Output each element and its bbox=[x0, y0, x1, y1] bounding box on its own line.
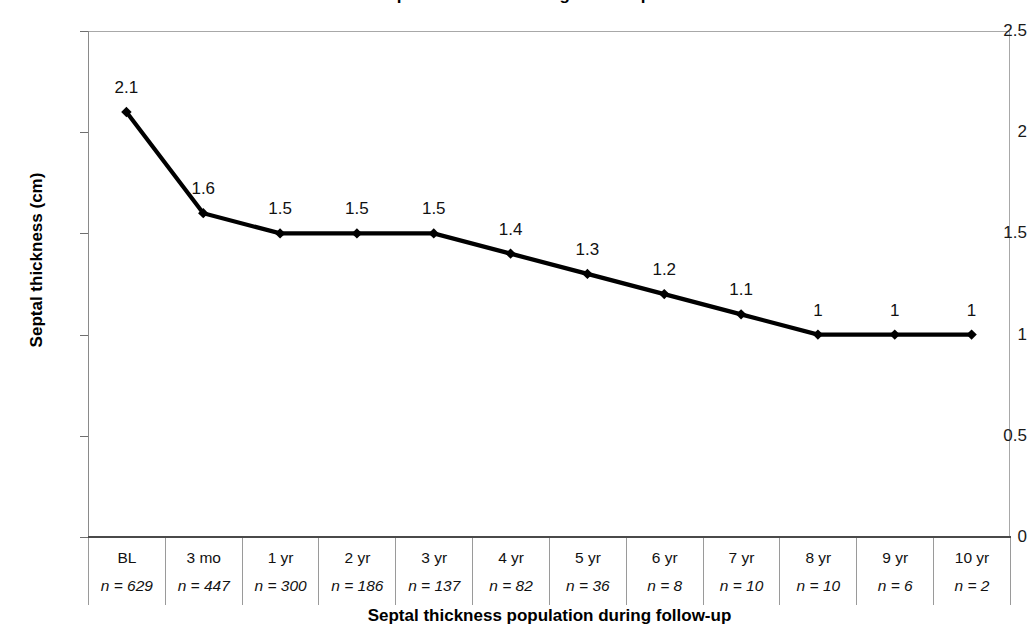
category-n-label: n = 8 bbox=[647, 578, 682, 594]
category-column: 2 yrn = 186 bbox=[318, 538, 395, 605]
category-label: 7 yr bbox=[729, 550, 755, 566]
y-tick-label: 2 bbox=[953, 123, 1027, 140]
data-point-label: 1.2 bbox=[629, 261, 699, 278]
plot-area bbox=[88, 31, 1010, 537]
y-tick-mark bbox=[80, 537, 88, 538]
category-label: 6 yr bbox=[652, 550, 678, 566]
y-tick-mark bbox=[80, 335, 88, 336]
category-n-label: n = 300 bbox=[254, 578, 306, 594]
category-label: 9 yr bbox=[882, 550, 908, 566]
data-point-label: 1.4 bbox=[476, 221, 546, 238]
category-column: 4 yrn = 82 bbox=[472, 538, 549, 605]
data-point-label: 1.5 bbox=[245, 200, 315, 217]
category-label: 8 yr bbox=[805, 550, 831, 566]
category-n-label: n = 2 bbox=[955, 578, 990, 594]
category-table: BLn = 6293 mon = 4471 yrn = 3002 yrn = 1… bbox=[88, 538, 1011, 605]
category-label: 5 yr bbox=[575, 550, 601, 566]
data-point-label: 2.1 bbox=[91, 79, 161, 96]
y-tick-mark bbox=[80, 233, 88, 234]
category-n-label: n = 82 bbox=[489, 578, 533, 594]
data-point-label: 1.3 bbox=[552, 241, 622, 258]
category-label: 3 mo bbox=[187, 550, 221, 566]
data-point-label: 1.5 bbox=[399, 200, 469, 217]
chart-title: Septal thickness during follow-up bbox=[0, 0, 1027, 5]
y-tick-mark bbox=[80, 436, 88, 437]
data-point-label: 1.5 bbox=[322, 200, 392, 217]
category-column: 6 yrn = 8 bbox=[626, 538, 703, 605]
category-label: 3 yr bbox=[421, 550, 447, 566]
category-column: 3 mon = 447 bbox=[165, 538, 242, 605]
category-n-label: n = 36 bbox=[566, 578, 610, 594]
data-point-label: 1 bbox=[860, 302, 930, 319]
category-n-label: n = 10 bbox=[720, 578, 764, 594]
y-axis-line bbox=[88, 31, 89, 538]
category-column: 10 yrn = 2 bbox=[933, 538, 1011, 605]
y-tick-label: 2.5 bbox=[953, 22, 1027, 39]
y-tick-label: 0.5 bbox=[953, 427, 1027, 444]
category-column: BLn = 629 bbox=[88, 538, 165, 605]
category-column: 7 yrn = 10 bbox=[703, 538, 780, 605]
category-label: 1 yr bbox=[268, 550, 294, 566]
category-label: BL bbox=[117, 550, 136, 566]
data-point-label: 1 bbox=[937, 302, 1007, 319]
category-n-label: n = 10 bbox=[797, 578, 841, 594]
x-axis-title: Septal thickness population during follo… bbox=[88, 606, 1011, 626]
data-point-label: 1 bbox=[783, 302, 853, 319]
data-point-label: 1.1 bbox=[706, 281, 776, 298]
category-column: 9 yrn = 6 bbox=[856, 538, 933, 605]
category-label: 2 yr bbox=[344, 550, 370, 566]
category-label: 4 yr bbox=[498, 550, 524, 566]
y-tick-mark bbox=[80, 132, 88, 133]
category-n-label: n = 629 bbox=[101, 578, 153, 594]
y-tick-label: 1 bbox=[953, 326, 1027, 343]
category-column: 8 yrn = 10 bbox=[779, 538, 856, 605]
category-column: 3 yrn = 137 bbox=[395, 538, 472, 605]
category-label: 10 yr bbox=[955, 550, 989, 566]
category-n-label: n = 137 bbox=[408, 578, 460, 594]
category-column: 1 yrn = 300 bbox=[242, 538, 319, 605]
y-axis-title: Septal thickness (cm) bbox=[27, 50, 47, 470]
y-tick-label: 1.5 bbox=[953, 224, 1027, 241]
category-n-label: n = 186 bbox=[331, 578, 383, 594]
category-n-label: n = 6 bbox=[878, 578, 913, 594]
data-point-label: 1.6 bbox=[168, 180, 238, 197]
category-n-label: n = 447 bbox=[178, 578, 230, 594]
chart-figure: Septal thickness during follow-up Septal… bbox=[0, 0, 1027, 636]
category-column: 5 yrn = 36 bbox=[549, 538, 626, 605]
y-tick-mark bbox=[80, 31, 88, 32]
